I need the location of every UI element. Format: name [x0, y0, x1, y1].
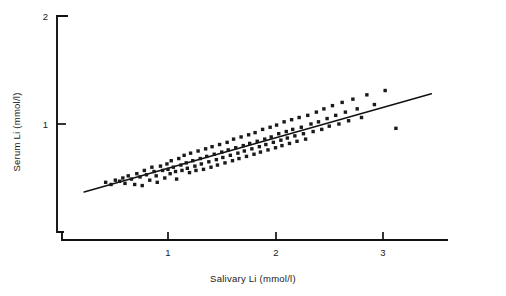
- data-point: [220, 150, 223, 153]
- data-point: [351, 97, 354, 100]
- y-tick-label-2: 2: [43, 11, 48, 22]
- data-point: [205, 155, 208, 158]
- data-point: [365, 93, 368, 96]
- data-point: [234, 146, 237, 149]
- data-point: [252, 153, 255, 156]
- data-point: [133, 183, 136, 186]
- data-point: [156, 181, 159, 184]
- data-point: [194, 169, 197, 172]
- x-tick-label-3: 3: [380, 247, 385, 258]
- data-point: [174, 170, 177, 173]
- data-point: [145, 173, 148, 176]
- x-axis-spine: [62, 233, 447, 240]
- data-point: [193, 164, 196, 167]
- data-point: [347, 119, 350, 122]
- data-point: [277, 132, 280, 135]
- data-point: [300, 126, 303, 129]
- data-point: [297, 116, 300, 119]
- data-point: [239, 135, 242, 138]
- data-point: [360, 116, 363, 119]
- data-point: [188, 171, 191, 174]
- data-point: [306, 114, 309, 117]
- data-point: [225, 141, 228, 144]
- y-tick-label-1: 1: [43, 119, 48, 130]
- data-point: [215, 158, 218, 161]
- data-point: [154, 174, 157, 177]
- data-point: [127, 174, 130, 177]
- data-point: [270, 135, 273, 138]
- data-point: [291, 128, 294, 131]
- data-point: [199, 157, 202, 160]
- data-point: [337, 122, 340, 125]
- data-point: [242, 144, 245, 147]
- data-point: [250, 147, 253, 150]
- data-point: [245, 155, 248, 158]
- data-point: [138, 175, 141, 178]
- data-point: [109, 183, 112, 186]
- data-point: [221, 156, 224, 159]
- data-point: [168, 172, 171, 175]
- data-point: [302, 132, 305, 135]
- data-point: [186, 167, 189, 170]
- data-point: [248, 142, 251, 145]
- data-point: [185, 161, 188, 164]
- data-point: [179, 163, 182, 166]
- data-point: [196, 149, 199, 152]
- data-point: [320, 128, 323, 131]
- data-point: [243, 149, 246, 152]
- x-tick-label-1: 1: [165, 247, 170, 258]
- data-point: [232, 137, 235, 140]
- data-point: [288, 142, 291, 145]
- data-point: [141, 184, 144, 187]
- data-point: [172, 166, 175, 169]
- data-point: [280, 144, 283, 147]
- data-point: [344, 110, 347, 113]
- data-point: [290, 118, 293, 121]
- data-point: [311, 130, 314, 133]
- scatter-plot-figure: 2 1 1 2 3 Serum Li (mmol/l) Salivary Li …: [0, 0, 506, 296]
- data-point: [207, 160, 210, 163]
- data-point: [282, 120, 285, 123]
- data-point: [189, 151, 192, 154]
- data-point: [373, 103, 376, 106]
- data-point: [165, 162, 168, 165]
- data-point: [229, 154, 232, 157]
- data-point: [383, 89, 386, 92]
- data-point: [118, 180, 121, 183]
- data-point: [216, 163, 219, 166]
- data-point: [285, 130, 288, 133]
- data-point: [275, 123, 278, 126]
- data-point: [191, 159, 194, 162]
- data-point: [182, 154, 185, 157]
- data-point: [170, 159, 173, 162]
- data-point: [237, 157, 240, 160]
- data-point: [209, 166, 212, 169]
- data-point: [272, 141, 275, 144]
- data-point: [210, 145, 213, 148]
- x-tick-label-2: 2: [273, 247, 278, 258]
- data-point: [331, 104, 334, 107]
- data-point: [218, 143, 221, 146]
- data-point: [213, 153, 216, 156]
- data-point: [315, 110, 318, 113]
- data-point: [261, 128, 264, 131]
- data-point: [304, 137, 307, 140]
- data-point: [317, 120, 320, 123]
- data-point: [231, 159, 234, 162]
- data-point: [227, 148, 230, 151]
- data-point: [356, 107, 359, 110]
- data-point: [121, 176, 124, 179]
- data-point: [258, 145, 261, 148]
- data-point: [256, 140, 259, 143]
- data-point: [259, 150, 262, 153]
- data-point: [159, 164, 162, 167]
- data-point: [236, 151, 239, 154]
- data-point: [263, 137, 266, 140]
- data-point: [180, 169, 183, 172]
- data-point: [150, 166, 153, 169]
- data-point: [334, 114, 337, 117]
- data-point: [274, 146, 277, 149]
- data-point: [279, 139, 282, 142]
- data-point: [104, 181, 107, 184]
- data-point: [175, 177, 178, 180]
